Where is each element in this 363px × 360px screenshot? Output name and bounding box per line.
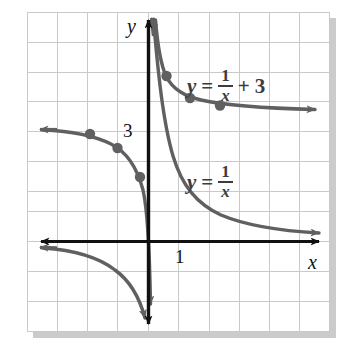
eq-shifted-denominator: x (218, 87, 233, 105)
plot-area: y = 1 x + 3 y = 1 x (27, 12, 330, 332)
y-axis-label: y (127, 15, 136, 38)
point-shifted-left-1 (85, 129, 95, 139)
eq-shifted-equals: = (201, 76, 213, 97)
eq-base-lhs: y (187, 172, 196, 193)
eq-shifted-lhs: y (187, 76, 196, 97)
eq-base-denominator: x (218, 183, 233, 201)
x-axis-label: x (308, 251, 317, 274)
point-shifted-left-2 (112, 143, 122, 153)
eq-shifted-fraction: 1 x (218, 67, 233, 105)
figure-canvas: y = 1 x + 3 y = 1 x (0, 0, 363, 360)
curve-shifted-left-branch (43, 130, 151, 304)
eq-shifted-plus: + (238, 76, 250, 97)
eq-base-fraction: 1 x (218, 163, 233, 201)
curve-base-left-branch (43, 248, 145, 318)
point-shifted-right-1 (161, 71, 171, 81)
curve-base-left-branch-left-arrow (40, 248, 57, 249)
curve-base-right-branch-top-arrow (152, 18, 154, 36)
eq-base-numerator: 1 (218, 163, 233, 181)
eq-shifted-constant: 3 (255, 76, 266, 97)
point-shifted-left-3 (135, 172, 145, 182)
x-axis-tick-label-1: 1 (175, 246, 185, 268)
eq-shifted-numerator: 1 (218, 67, 233, 85)
eq-base-equals: = (201, 172, 213, 193)
y-axis-tick-label-3: 3 (123, 120, 133, 142)
equation-label-shifted: y = 1 x + 3 (187, 68, 265, 106)
plot-svg (27, 12, 330, 332)
equation-label-base: y = 1 x (187, 164, 233, 202)
